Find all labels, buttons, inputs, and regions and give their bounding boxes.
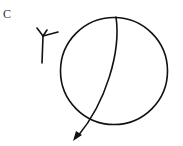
sphere-circle bbox=[61, 18, 168, 125]
y-symbol-icon bbox=[37, 28, 58, 63]
curved-trajectory bbox=[78, 17, 117, 136]
diagram-canvas bbox=[0, 0, 183, 146]
